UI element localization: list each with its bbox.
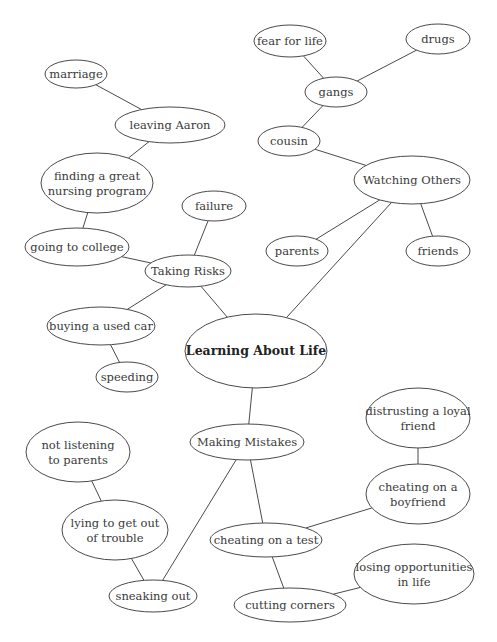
node-notlistening: not listeningto parents: [26, 422, 130, 482]
node-label: failure: [195, 199, 233, 213]
node-fear: fear for life: [254, 25, 326, 57]
connector-nursing-aaron: [128, 142, 149, 158]
node-label: losing opportunities: [356, 560, 473, 574]
node-label: of trouble: [86, 531, 143, 545]
node-cousin: cousin: [258, 126, 320, 156]
node-test: cheating on a test: [210, 523, 322, 557]
node-label: parents: [275, 244, 320, 258]
node-label: Watching Others: [363, 173, 461, 187]
node-label: Learning About Life: [186, 343, 326, 358]
node-label: marriage: [49, 67, 103, 81]
connector-watching-cousin: [315, 149, 366, 165]
node-label: friend: [400, 419, 436, 433]
connector-test-boyfriend: [306, 508, 372, 528]
mind-map-canvas: Learning About LifeWatching OthersTaking…: [0, 0, 497, 642]
node-label: Making Mistakes: [197, 435, 297, 449]
mind-map-diagram: Learning About LifeWatching OthersTaking…: [0, 0, 497, 642]
connector-mistakes-sneaking: [163, 460, 237, 581]
connector-cousin-gangs: [302, 106, 323, 128]
node-label: to parents: [48, 453, 108, 467]
node-label: not listening: [41, 438, 115, 452]
node-label: speeding: [101, 370, 154, 384]
node-label: cutting corners: [245, 598, 335, 612]
node-label: drugs: [421, 32, 455, 46]
node-corners: cutting corners: [234, 588, 346, 622]
node-car: buying a used car: [47, 307, 155, 345]
node-distrust: distrusting a loyalfriend: [365, 388, 471, 448]
node-label: cheating on a test: [214, 533, 319, 547]
node-aaron: leaving Aaron: [115, 107, 225, 143]
node-label: lying to get out: [71, 516, 160, 530]
connector-sneaking-lying: [131, 559, 144, 581]
node-college: going to college: [25, 228, 129, 266]
node-gangs: gangs: [305, 77, 367, 107]
node-lying: lying to get outof trouble: [62, 500, 168, 560]
node-sneaking: sneaking out: [109, 580, 197, 612]
node-label: friends: [418, 244, 459, 258]
connector-watching-friends: [421, 204, 433, 236]
node-label: sneaking out: [116, 589, 191, 603]
node-opportunities: losing opportunitiesin life: [354, 544, 474, 604]
connector-risks-college: [122, 257, 151, 263]
node-risks: Taking Risks: [145, 255, 231, 287]
node-parents: parents: [266, 236, 328, 266]
connector-risks-failure: [194, 221, 208, 255]
connector-corners-opportunities: [333, 587, 360, 594]
node-label: Taking Risks: [151, 264, 225, 278]
connector-gangs-drugs: [357, 50, 416, 81]
connector-test-corners: [272, 557, 284, 588]
node-friends: friends: [406, 236, 470, 266]
node-label: buying a used car: [49, 319, 153, 333]
node-boyfriend: cheating on aboyfriend: [366, 464, 470, 524]
node-failure: failure: [182, 191, 246, 221]
node-speeding: speeding: [96, 362, 158, 392]
node-marriage: marriage: [45, 60, 107, 88]
node-label: nursing program: [48, 184, 147, 198]
node-mistakes: Making Mistakes: [190, 424, 304, 460]
connector-risks-car: [127, 285, 166, 310]
connector-watching-parents: [316, 200, 380, 239]
connector-root-mistakes: [249, 388, 253, 424]
node-label: leaving Aaron: [130, 118, 212, 132]
node-root: Learning About Life: [185, 314, 327, 388]
connector-college-nursing: [83, 213, 88, 229]
node-label: gangs: [319, 85, 354, 99]
node-label: in life: [397, 575, 430, 589]
connector-root-risks: [201, 286, 227, 317]
connector-aaron-marriage: [96, 85, 142, 110]
node-label: going to college: [30, 240, 123, 254]
node-drugs: drugs: [406, 24, 470, 54]
connector-car-speeding: [111, 345, 120, 363]
nodes-layer: Learning About LifeWatching OthersTaking…: [25, 24, 474, 622]
node-label: distrusting a loyal: [365, 404, 471, 418]
node-label: cheating on a: [378, 480, 457, 494]
node-label: boyfriend: [390, 495, 446, 509]
node-label: finding a great: [54, 169, 141, 183]
connector-mistakes-test: [250, 460, 262, 523]
connector-lying-notlistening: [92, 481, 102, 501]
node-nursing: finding a greatnursing program: [41, 153, 153, 213]
connector-gangs-fear: [303, 56, 323, 78]
node-label: cousin: [270, 134, 308, 148]
node-watching: Watching Others: [354, 156, 470, 204]
node-label: fear for life: [257, 34, 323, 48]
